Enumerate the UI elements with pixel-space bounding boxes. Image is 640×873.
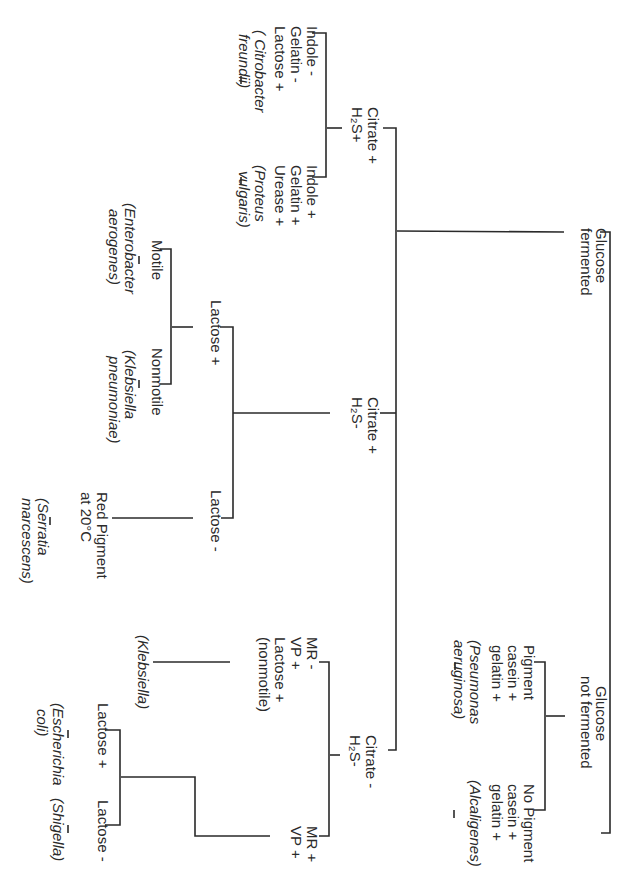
node-lactose-neg: Lactose -	[208, 490, 225, 552]
organism-klebsiella: (Klebsiella)	[135, 635, 152, 709]
node-lactose-neg-shigella: Lactose -	[95, 800, 112, 862]
organism-shigella: (Shigella)	[50, 798, 67, 861]
label-casein: casein +	[505, 784, 522, 841]
node-pigment: Pigment casein + gelatin +	[489, 645, 538, 702]
label-lactose-neg: Lactose -	[208, 490, 225, 552]
label-h2s: H₂S-	[347, 735, 364, 767]
label-citrate: Citrate +	[365, 107, 382, 164]
organism-line: (Klebsiella)	[135, 635, 152, 709]
label-vp: VP +	[288, 637, 305, 670]
organism-line: (Klebsiella	[122, 350, 139, 419]
label-lactose-neg: Lactose -	[95, 800, 112, 862]
label-h2s: H₂S+	[349, 107, 366, 143]
organism-line: ( Citrobacter	[252, 30, 269, 114]
label-not-fermented: not fermented	[578, 676, 595, 769]
mr-pos-stem	[121, 777, 270, 836]
organism-line: (Shigella)	[50, 798, 67, 861]
organism-line: (Alcaligenes)	[467, 780, 484, 867]
node-mr-pos: MR + VP +	[288, 826, 321, 862]
organism-escherichia-coli: (Escherichia coli)	[34, 703, 67, 786]
label-gelatin: Gelatin +	[288, 165, 305, 226]
organism-enterobacter-aerogenes: (Enterobacter aerogenes)	[106, 203, 139, 295]
organism-line: (Enterobacter	[122, 203, 139, 295]
node-citrate-pos-h2s-neg: Citrate + H₂S-	[349, 397, 382, 454]
organism-line: aerogenes)	[106, 209, 123, 285]
label-gelatin: gelatin +	[489, 784, 506, 841]
label-motile: Motile	[149, 240, 166, 280]
node-glucose-fermented: Glucose fermented	[578, 228, 610, 296]
node-nonmotile: Nonmotile	[149, 348, 166, 416]
label-nonmotile: Nonmotile	[149, 348, 166, 416]
node-motile: Motile	[149, 240, 166, 280]
node-lactose-pos: Lactose +	[208, 300, 225, 366]
organism-klebsiella-pneumoniae: (Klebsiella pneumoniae)	[106, 350, 139, 444]
label-mr: MR +	[304, 826, 321, 862]
organism-line: (Proteus	[252, 165, 269, 222]
organism-citrobacter-freundii: ( Citrobacter freundii)	[236, 30, 269, 114]
label-mr: MR -	[304, 637, 321, 670]
organism-line: vulgaris)	[236, 171, 253, 228]
label-lactose: Lactose +	[272, 26, 289, 92]
organism-line: (Escherichia	[50, 703, 67, 786]
node-glucose-not-fermented: Glucose not fermented	[578, 676, 610, 769]
label-nonmotile: (nonmotile)	[256, 637, 273, 712]
organism-alcaligenes: (Alcaligenes)	[467, 780, 484, 867]
organism-proteus-vulgaris: (Proteus vulgaris)	[236, 165, 269, 228]
fermented-stem	[397, 231, 564, 232]
organism-line: freundii)	[236, 34, 253, 88]
organism-line: marcescens)	[19, 498, 36, 584]
label-red-pigment: Red Pigment	[94, 492, 111, 580]
label-pigment: Pigment	[521, 645, 538, 701]
organism-line: aeruginosa)	[451, 640, 468, 719]
label-urease: Urease +	[272, 165, 289, 227]
label-lactose-pos: Lactose +	[208, 300, 225, 366]
label-lactose-pos: Lactose +	[95, 703, 112, 769]
root-bracket	[600, 232, 610, 833]
fermented-trunk	[383, 128, 396, 750]
label-lactose: Lactose +	[272, 637, 289, 703]
node-lactose-pos-ecoli: Lactose +	[95, 703, 112, 769]
identification-key-diagram: Glucose fermented Glucose not fermented …	[0, 0, 640, 873]
label-indole: Indole +	[304, 165, 321, 219]
label-gelatin: gelatin +	[489, 645, 506, 702]
label-citrate: Citrate -	[363, 735, 380, 788]
organism-line: (Serratia	[35, 498, 52, 556]
connector-lines	[50, 33, 610, 836]
organism-line: (Pseumonas	[467, 640, 484, 725]
label-indole: Indole -	[304, 26, 321, 76]
label-citrate: Citrate +	[365, 397, 382, 454]
organism-line: coli)	[34, 709, 51, 737]
node-red-pigment: Red Pigment at 20°C	[78, 492, 111, 580]
node-indole-pos: Indole + Gelatin + Urease +	[272, 165, 321, 227]
label-no-pigment: No Pigment	[521, 784, 538, 863]
organism-serratia-marcescens: (Serratia marcescens)	[19, 498, 52, 584]
label-casein: casein +	[505, 645, 522, 702]
node-no-pigment: No Pigment casein + gelatin +	[489, 784, 538, 863]
label-gelatin: Gelatin -	[288, 26, 305, 83]
label-at-20c: at 20°C	[78, 492, 95, 542]
node-citrate-neg-h2s-neg: Citrate - H₂S-	[347, 735, 380, 788]
label-fermented: fermented	[578, 228, 595, 296]
label-vp: VP +	[288, 826, 305, 859]
node-indole-neg: Indole - Gelatin - Lactose +	[272, 26, 321, 92]
organism-pseudomonas-aeruginosa: (Pseumonas aeruginosa)	[451, 640, 484, 725]
node-citrate-pos-h2s-pos: Citrate + H₂S+	[349, 107, 382, 164]
label-h2s: H₂S-	[349, 397, 366, 429]
organism-line: pneumoniae)	[106, 355, 123, 444]
mr-bracket	[319, 662, 329, 836]
node-mr-neg: MR - VP + Lactose + (nonmotile)	[256, 637, 321, 712]
